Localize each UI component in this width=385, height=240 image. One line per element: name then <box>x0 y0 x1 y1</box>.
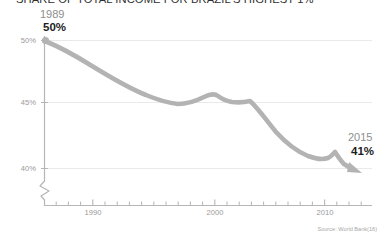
data-line-top1pct-share <box>45 41 352 169</box>
y-tick-label-50: 50% <box>10 36 36 45</box>
y-tick-label-40: 40% <box>10 164 36 173</box>
source-note: Source: World Bank(16) <box>317 226 377 232</box>
x-tick-label-2000: 2000 <box>195 208 235 217</box>
annotation-start-value: 50% <box>43 21 66 33</box>
annotation-start-year: 1989 <box>40 8 64 20</box>
chart-figure: SHARE OF TOTAL INCOME FOR BRAZIL'S HIGHE… <box>0 0 385 240</box>
x-tick-label-1990: 1990 <box>73 208 113 217</box>
start-point-marker <box>42 37 49 44</box>
gridlines <box>44 41 372 169</box>
x-axis-major-ticks <box>93 200 325 206</box>
line-end-arrow-icon <box>347 162 362 173</box>
annotation-end-year: 2015 <box>348 131 372 143</box>
y-tick-label-45: 45% <box>10 98 36 107</box>
x-tick-label-2010: 2010 <box>305 208 345 217</box>
y-axis-break-icon <box>40 181 49 200</box>
chart-plot-area <box>0 0 385 240</box>
annotation-end-value: 41% <box>351 145 374 157</box>
